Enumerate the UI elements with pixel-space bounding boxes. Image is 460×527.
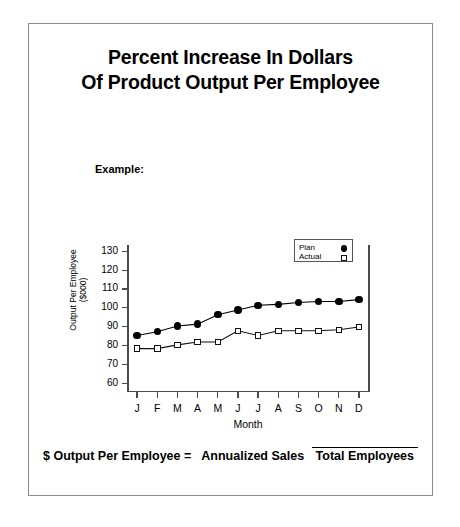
data-point-plan	[133, 332, 141, 340]
formula-fraction: Annualized Sales Total Employees	[197, 449, 418, 463]
formula-denominator: Total Employees	[312, 447, 418, 463]
formula-left-side: $ Output Per Employee =	[43, 449, 191, 463]
data-point-actual	[275, 328, 282, 335]
formula-block: $ Output Per Employee = Annualized Sales…	[28, 449, 433, 463]
formula-numerator: Annualized Sales	[197, 449, 308, 464]
data-point-actual	[315, 328, 322, 335]
data-point-plan	[335, 298, 343, 306]
data-point-actual	[134, 345, 141, 352]
data-point-plan	[214, 311, 222, 319]
data-point-plan	[275, 301, 283, 309]
example-label: Example:	[95, 163, 144, 175]
data-point-plan	[174, 322, 182, 330]
data-point-actual	[194, 339, 201, 346]
data-point-plan	[254, 302, 262, 310]
data-point-actual	[215, 339, 222, 346]
page-canvas: Percent Increase In Dollars Of Product O…	[0, 0, 460, 527]
data-point-actual	[295, 328, 302, 335]
page-title-line-1: Percent Increase In Dollars	[28, 45, 433, 70]
data-point-actual	[356, 324, 363, 331]
data-point-plan	[234, 306, 242, 314]
data-point-plan	[355, 296, 363, 304]
data-point-actual	[235, 328, 242, 335]
page-title-line-2: Of Product Output Per Employee	[28, 70, 433, 95]
page-title: Percent Increase In Dollars Of Product O…	[28, 45, 433, 95]
series-line-actual	[137, 327, 359, 349]
data-point-actual	[336, 327, 343, 334]
data-point-actual	[154, 345, 161, 352]
data-point-actual	[174, 342, 181, 349]
line-chart: Output Per Employee ($000) 6070809010011…	[58, 232, 388, 432]
data-point-actual	[255, 332, 262, 339]
